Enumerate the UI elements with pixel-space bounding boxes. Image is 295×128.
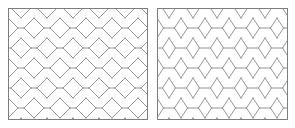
lattice-edge <box>187 8 194 18</box>
lattice-edge <box>241 38 248 48</box>
lattice-edge <box>63 88 73 98</box>
lattice-edge <box>99 38 109 48</box>
lattice-edge <box>229 68 236 78</box>
lattice-edge <box>76 98 86 108</box>
lattice-edge <box>50 28 60 38</box>
lattice-edge <box>125 38 135 48</box>
lattice-edge <box>211 48 218 58</box>
lattice-edge <box>99 88 109 98</box>
lattice-edge <box>60 28 70 38</box>
lattice-edge <box>229 108 236 118</box>
lattice-edge <box>265 78 272 88</box>
lattice-edge <box>157 58 164 68</box>
lattice-edge <box>175 68 182 78</box>
lattice-edge <box>86 108 96 118</box>
lattice-edge <box>73 88 83 98</box>
lattice-edge <box>217 88 224 98</box>
lattice-edge <box>89 88 99 98</box>
lattice-edge <box>205 68 212 78</box>
lattice-edge <box>223 18 230 28</box>
lattice-edge <box>277 98 284 108</box>
lattice-edge <box>86 18 96 28</box>
lattice-edge <box>193 88 200 98</box>
lattice-edge <box>187 48 194 58</box>
lattice-edge <box>169 38 176 48</box>
lattice-edge <box>223 28 230 38</box>
lattice-edge <box>138 68 148 78</box>
lattice-edge <box>138 28 148 38</box>
lattice-edge <box>199 28 206 38</box>
lattice-edge <box>138 18 148 28</box>
lattice-edge <box>253 18 260 28</box>
lattice-edge <box>50 58 60 68</box>
lattice-edge <box>125 48 135 58</box>
lattice-edge <box>21 48 31 58</box>
lattice-edge <box>21 88 31 98</box>
lattice-edge <box>265 48 272 58</box>
lattice-edge <box>125 118 127 120</box>
lattice-edge <box>283 48 289 56</box>
lattice-edge <box>223 58 230 68</box>
lattice-edge <box>271 68 278 78</box>
lattice-edge <box>205 108 212 118</box>
lattice-edge <box>115 38 125 48</box>
lattice-edge <box>199 108 206 118</box>
lattice-edge <box>125 78 135 88</box>
lattice-edge <box>89 8 99 18</box>
lattice-edge <box>112 108 122 118</box>
lattice-edge <box>37 88 47 98</box>
lattice-edge <box>193 48 200 58</box>
lattice-edge <box>89 38 99 48</box>
lattice-edge <box>241 78 248 88</box>
lattice-edge <box>60 98 70 108</box>
deformed-lattice-drawing <box>157 8 288 120</box>
lattice-edge <box>175 28 182 38</box>
lattice-edge <box>24 108 34 118</box>
lattice-edge <box>157 108 164 118</box>
lattice-edge <box>265 118 266 120</box>
lattice-edge <box>223 108 230 118</box>
lattice-edge <box>259 38 266 48</box>
lattice-edge <box>187 38 194 48</box>
lattice-edge <box>217 118 218 120</box>
lattice-edge <box>11 48 21 58</box>
lattice-edge <box>128 98 138 108</box>
lattice-edge <box>112 18 122 28</box>
lattice-edge <box>211 78 218 88</box>
lattice-edge <box>34 108 44 118</box>
lattice-edge <box>271 108 278 118</box>
lattice-edge <box>128 108 138 118</box>
lattice-edge <box>193 38 200 48</box>
lattice-edge <box>63 78 73 88</box>
lattice-edge <box>115 48 125 58</box>
lattice-edge <box>8 98 18 108</box>
lattice-edge <box>34 58 44 68</box>
lattice-edge <box>187 88 194 98</box>
lattice-edge <box>47 88 57 98</box>
lattice-edge <box>115 78 125 88</box>
lattice-edge <box>235 78 242 88</box>
lattice-edge <box>217 48 224 58</box>
lattice-edge <box>253 28 260 38</box>
lattice-edge <box>102 18 112 28</box>
lattice-edge <box>259 88 266 98</box>
lattice-edge <box>34 98 44 108</box>
lattice-edge <box>217 38 224 48</box>
lattice-edge <box>235 88 242 98</box>
lattice-edge <box>141 8 148 15</box>
honeycomb-lattice-figure <box>0 0 295 128</box>
lattice-edge <box>50 108 60 118</box>
lattice-edge <box>175 58 182 68</box>
lattice-edge <box>157 28 164 38</box>
lattice-edge <box>11 88 21 98</box>
lattice-edge <box>21 118 23 120</box>
lattice-edge <box>34 68 44 78</box>
lattice-edge <box>60 18 70 28</box>
lattice-edge <box>199 98 206 108</box>
lattice-edge <box>76 28 86 38</box>
lattice-edge <box>265 8 272 18</box>
lattice-edge <box>193 78 200 88</box>
lattice-edge <box>47 8 57 18</box>
lattice-edge <box>128 58 138 68</box>
lattice-edge <box>217 8 224 18</box>
